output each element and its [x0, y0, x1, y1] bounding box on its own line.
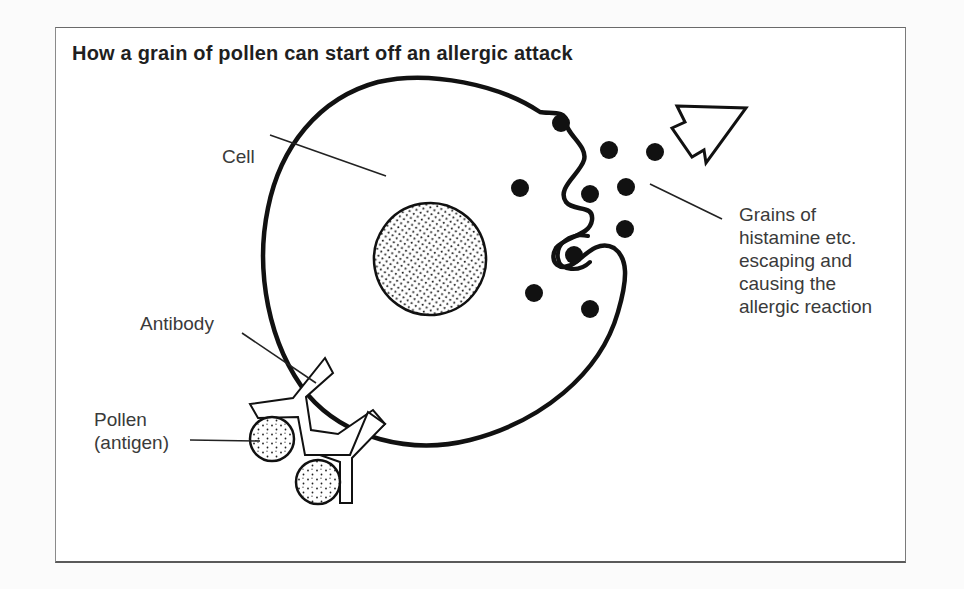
- histamine-grain: [617, 178, 635, 196]
- label-pollen-line-1: Pollen: [94, 408, 169, 431]
- histamine-grain: [646, 143, 664, 161]
- histamine-grain: [565, 246, 583, 264]
- label-histamine-line-4: causing the: [739, 272, 872, 295]
- label-antibody: Antibody: [140, 312, 214, 335]
- escape-arrow-icon: [672, 106, 746, 163]
- label-histamine: Grains of histamine etc. escaping and ca…: [739, 203, 872, 318]
- histamine-grain: [600, 141, 618, 159]
- label-pollen: Pollen (antigen): [94, 408, 169, 454]
- leader-line-histamine: [650, 184, 722, 219]
- histamine-grain: [581, 300, 599, 318]
- label-histamine-line-3: escaping and: [739, 249, 872, 272]
- histamine-grain: [525, 284, 543, 302]
- pollen-grain: [296, 460, 340, 504]
- label-histamine-line-5: allergic reaction: [739, 295, 872, 318]
- label-histamine-line-2: histamine etc.: [739, 226, 872, 249]
- histamine-grain: [552, 114, 570, 132]
- label-pollen-line-2: (antigen): [94, 431, 169, 454]
- label-cell: Cell: [222, 145, 255, 168]
- histamine-grain: [511, 179, 529, 197]
- histamine-grain: [581, 185, 599, 203]
- histamine-grain: [616, 220, 634, 238]
- label-histamine-line-1: Grains of: [739, 203, 872, 226]
- label-antibody-text: Antibody: [140, 312, 214, 335]
- pollen-grain: [250, 417, 294, 461]
- leader-line-pollen: [190, 440, 260, 441]
- label-cell-text: Cell: [222, 145, 255, 168]
